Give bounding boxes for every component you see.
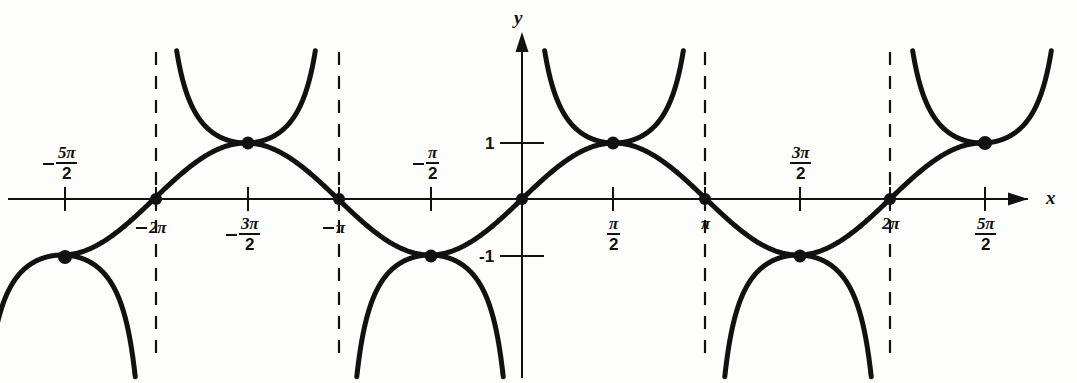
x-tick-label-pos-3pi-2: 3π2 — [790, 144, 811, 183]
x-tick-label-neg-pi: π — [323, 215, 345, 236]
x-tick-label-neg-pi-2: π2 — [413, 144, 439, 183]
tangency-dot-2 — [607, 137, 620, 150]
y-tick-label-y-pos-1: 1 — [485, 135, 494, 152]
endpoint-dot-1 — [978, 136, 992, 150]
cosecant-branch-3 — [545, 51, 684, 143]
minus-sign-icon — [323, 227, 334, 230]
tangency-dot-0 — [242, 137, 255, 150]
cosecant-branch-4 — [725, 255, 871, 377]
intercept-dot-0 — [150, 193, 162, 205]
x-tick-label-pos-2pi: 2π — [882, 215, 899, 232]
x-tick-label-pos-pi-2: π2 — [607, 215, 620, 254]
minus-sign-icon — [413, 163, 424, 166]
x-tick-label-pos-5pi-2: 5π2 — [975, 215, 996, 254]
x-axis-arrow-icon — [1008, 193, 1028, 206]
cosecant-branch-1 — [177, 51, 316, 143]
x-tick-label-neg-2pi: 2π — [136, 215, 166, 236]
x-tick-label-neg-5pi-2: 5π2 — [43, 144, 77, 183]
plot-canvas — [0, 0, 1077, 383]
intercept-dot-2 — [516, 193, 528, 205]
cosecant-branch-5 — [913, 51, 1052, 143]
figure-graph-sin-csc: 5π22π3π2ππ2π2π3π22π5π2 1-1 x y — [0, 0, 1077, 383]
minus-sign-icon — [226, 234, 237, 237]
intercept-dot-1 — [333, 193, 345, 205]
intercept-dot-3 — [699, 193, 711, 205]
x-tick-label-pos-pi: π — [701, 215, 710, 232]
endpoint-dot-0 — [58, 250, 72, 264]
y-axis-label: y — [514, 8, 522, 27]
y-tick-label-y-neg-1: -1 — [479, 248, 494, 265]
minus-sign-icon — [136, 227, 147, 230]
cosecant-branch-0 — [0, 255, 135, 377]
minus-sign-icon — [43, 163, 54, 166]
cosecant-branch-2 — [357, 255, 503, 377]
y-axis-arrow-icon — [516, 32, 529, 52]
x-tick-label-neg-3pi-2: 3π2 — [226, 215, 260, 254]
x-axis-label: x — [1046, 188, 1056, 207]
tangency-dot-3 — [794, 250, 807, 263]
tangency-dot-1 — [425, 250, 438, 263]
intercept-dot-4 — [884, 193, 896, 205]
